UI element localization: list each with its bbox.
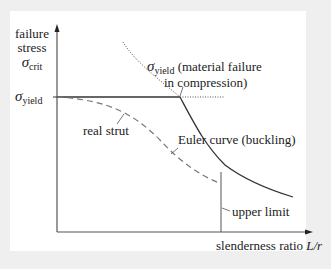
euler-curve [180, 97, 293, 197]
real-strut-annotation: real strut [83, 124, 129, 138]
euler-annotation: Euler curve (buckling) [178, 133, 296, 147]
x-axis-label: slenderness ratio L/r [216, 239, 322, 253]
y-label-symbol: σcrit [14, 55, 50, 71]
y-axis-arrow-icon [55, 24, 60, 32]
y-tick-yield-label: σyield [15, 89, 42, 105]
y-label-line1: failure [14, 27, 50, 41]
y-label-line2: stress [14, 41, 50, 55]
yield-annotation-line2: in compression) [164, 76, 247, 90]
upper-limit-leader [222, 208, 230, 211]
upper-limit-annotation: upper limit [232, 205, 289, 219]
yield-annotation: σyield (material failure [147, 59, 262, 75]
euler-leader [171, 148, 178, 154]
x-axis-arrow-icon [305, 230, 313, 235]
y-axis-label: failure stress σcrit [14, 27, 50, 71]
